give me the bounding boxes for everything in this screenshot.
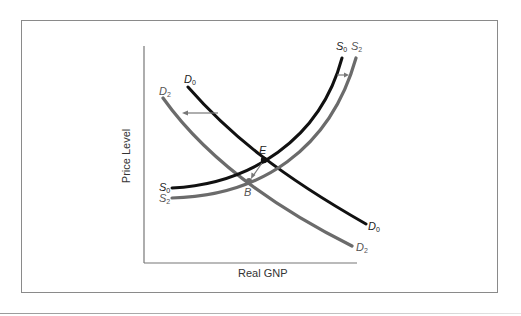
curve-d2 bbox=[163, 98, 352, 246]
curve-s0 bbox=[172, 58, 342, 188]
label-d2-top: D2 bbox=[159, 86, 171, 98]
curve-s2 bbox=[172, 58, 356, 198]
label-s0-top: S0 bbox=[336, 41, 347, 53]
label-d0-end: D0 bbox=[368, 221, 380, 233]
label-point-e: E bbox=[259, 145, 266, 156]
label-d2-end: D2 bbox=[356, 242, 368, 254]
point-e-marker bbox=[261, 157, 267, 163]
point-b-marker bbox=[246, 178, 252, 184]
label-d0-top: D0 bbox=[184, 74, 196, 86]
label-point-b: B bbox=[244, 187, 251, 198]
label-s2-top: S2 bbox=[351, 41, 362, 53]
y-axis-label: Price Level bbox=[120, 129, 132, 183]
label-s2-left: S2 bbox=[159, 193, 170, 205]
x-axis-label: Real GNP bbox=[238, 267, 288, 279]
